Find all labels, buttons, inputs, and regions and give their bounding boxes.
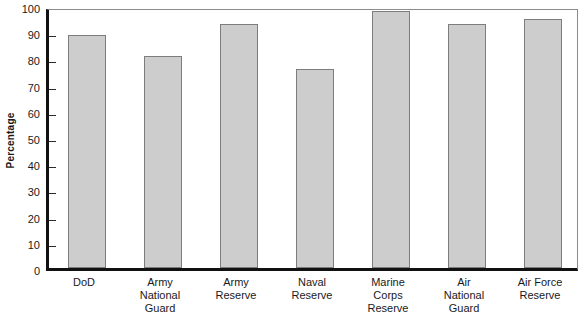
x-axis-category-label: Air National Guard: [426, 276, 502, 315]
bar: [144, 56, 182, 268]
y-axis-tick-label: 80: [28, 56, 40, 67]
x-axis-category-label: DoD: [46, 276, 122, 289]
y-axis-tick-label: 50: [28, 135, 40, 146]
bar: [524, 19, 562, 268]
x-axis-category-label: Army Reserve: [198, 276, 274, 302]
bar: [296, 69, 334, 268]
y-axis-tick-label: 40: [28, 161, 40, 172]
bars-layer: [49, 10, 577, 268]
bar-chart: Percentage 0102030405060708090100 DoDArm…: [0, 0, 584, 319]
bar: [220, 24, 258, 268]
x-axis-category-labels: DoDArmy National GuardArmy ReserveNaval …: [46, 276, 578, 319]
y-axis-tick-label: 90: [28, 30, 40, 41]
y-axis-tick-labels: 0102030405060708090100: [18, 0, 44, 280]
y-axis-tick-label: 70: [28, 82, 40, 93]
x-axis-category-label: Army National Guard: [122, 276, 198, 315]
x-axis-category-label: Marine Corps Reserve: [350, 276, 426, 315]
y-axis-tick-label: 100: [22, 4, 40, 15]
y-axis-title-text: Percentage: [6, 112, 17, 168]
bar: [68, 35, 106, 268]
plot-area: [49, 10, 577, 268]
y-axis-tick-label: 10: [28, 239, 40, 250]
y-axis-tick-label: 60: [28, 108, 40, 119]
y-axis-tick-label: 30: [28, 187, 40, 198]
y-axis-tick-label: 0: [34, 266, 40, 277]
x-axis-category-label: Naval Reserve: [274, 276, 350, 302]
y-axis-tick-label: 20: [28, 213, 40, 224]
x-axis-category-label: Air Force Reserve: [502, 276, 578, 302]
bar: [448, 24, 486, 268]
plot-frame: [46, 9, 578, 271]
bar: [372, 11, 410, 268]
